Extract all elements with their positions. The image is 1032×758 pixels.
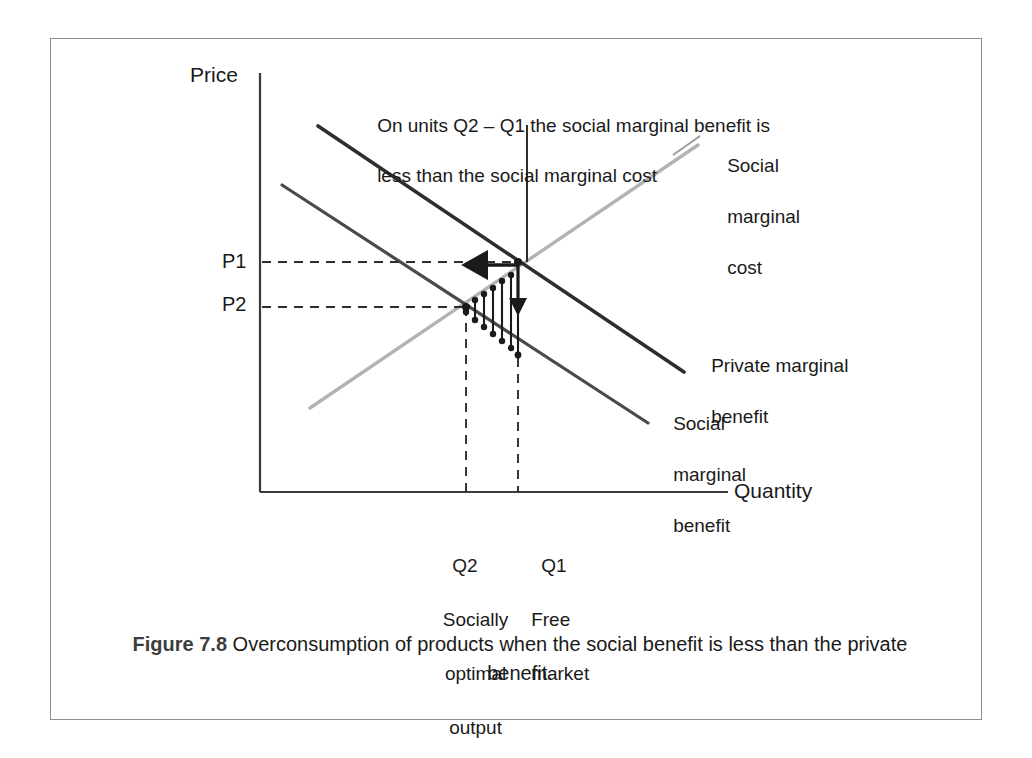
price-tick-p1: P1: [222, 249, 246, 273]
q2-description-line-3: output: [449, 717, 502, 738]
socially-optimal-dot: [462, 303, 470, 311]
quantity-tick-q2-group: Q2 Socially optimal output: [406, 499, 524, 758]
smb-label-line-3: benefit: [673, 515, 730, 536]
annotation-line-2: less than the social marginal cost: [377, 165, 657, 186]
figure-page: Price Quantity P1 P2 On units Q2 – Q1 th…: [0, 0, 1032, 758]
figure-caption-label: Figure 7.8: [133, 633, 227, 655]
smb-label-line-1: Social: [673, 413, 725, 434]
social-marginal-cost-label: Social marginal cost: [706, 128, 800, 306]
free-market-equilibrium-dot: [514, 258, 522, 266]
figure-caption: Figure 7.8 Overconsumption of products w…: [120, 630, 920, 688]
figure-caption-text: Overconsumption of products when the soc…: [233, 633, 908, 684]
smc-label-line-2: marginal: [727, 206, 800, 227]
quantity-tick-q1: Q1: [510, 553, 620, 580]
quantity-tick-q2: Q2: [406, 553, 524, 580]
q1-description-line-1: Free: [531, 609, 570, 630]
social-marginal-benefit-label: Social marginal benefit: [652, 386, 746, 564]
smc-label-line-3: cost: [727, 257, 762, 278]
price-tick-p2: P2: [222, 292, 246, 316]
reference-lines: [262, 262, 518, 492]
y-axis-label: Price: [190, 62, 238, 88]
q2-description-line-1: Socially: [443, 609, 508, 630]
smb-label-line-2: marginal: [673, 464, 746, 485]
smc-label-line-1: Social: [727, 155, 779, 176]
pmb-label-line-1: Private marginal: [711, 355, 848, 376]
